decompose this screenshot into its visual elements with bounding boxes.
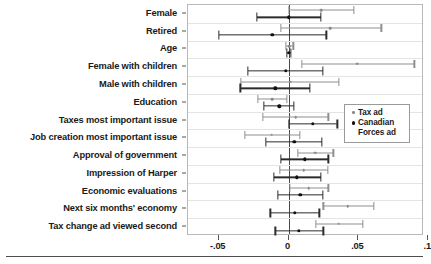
point-estimate-marker	[347, 205, 350, 208]
confidence-interval-cap	[286, 95, 287, 103]
confidence-interval-cap	[270, 208, 271, 217]
gridline	[188, 76, 422, 77]
point-estimate-marker	[271, 98, 274, 101]
confidence-interval-cap	[288, 119, 289, 128]
confidence-interval-cap	[333, 149, 334, 157]
confidence-interval-cap	[354, 6, 355, 14]
confidence-interval-cap	[301, 60, 302, 68]
y-axis-tick	[182, 83, 186, 84]
x-axis: -.050.05.1	[187, 235, 423, 261]
y-axis-tick-label: Job creation most important issue	[30, 132, 177, 142]
confidence-interval-cap	[289, 184, 290, 192]
y-axis-tick-label: Taxes most important issue	[59, 115, 177, 125]
y-axis-tick	[182, 208, 186, 209]
y-axis-tick	[182, 190, 186, 191]
point-estimate-marker	[294, 116, 297, 119]
y-axis-tick-label: Economic evaluations	[82, 186, 177, 196]
gridline	[188, 165, 422, 166]
legend-dot-icon-canadian-forces-ad	[349, 118, 358, 124]
confidence-interval-cap	[320, 13, 321, 22]
point-estimate-marker	[284, 69, 287, 72]
confidence-interval-cap	[262, 113, 263, 121]
point-estimate-marker	[303, 158, 306, 161]
legend-item-tax-ad: Tax ad	[349, 108, 405, 117]
confidence-interval-cap	[293, 42, 294, 50]
confidence-interval-cap	[328, 113, 329, 121]
gridline	[188, 58, 422, 59]
y-axis-tick-label: Female	[146, 8, 177, 18]
y-axis-tick	[182, 48, 186, 49]
confidence-interval-cap	[327, 166, 328, 174]
gridline	[188, 23, 422, 24]
y-axis-tick-label: Approval of government	[73, 150, 177, 160]
confidence-interval-cap	[275, 226, 276, 235]
point-estimate-marker	[320, 9, 323, 12]
confidence-interval-cap	[299, 131, 300, 139]
gridline	[188, 41, 422, 42]
y-axis-tick-label: Age	[160, 43, 177, 53]
confidence-interval-cap	[297, 149, 298, 157]
legend-label-canadian-forces-ad: Canadian Forces ad	[358, 118, 405, 137]
confidence-interval-cap	[319, 208, 320, 217]
point-estimate-marker	[274, 87, 277, 90]
confidence-interval-cap	[362, 220, 363, 228]
confidence-interval-cap	[288, 6, 289, 14]
y-axis-tick	[182, 66, 186, 67]
point-estimate-marker	[293, 211, 296, 214]
confidence-interval-cap	[373, 202, 374, 210]
confidence-interval-cap	[257, 95, 258, 103]
confidence-interval-cap	[240, 84, 241, 93]
confidence-interval-cap	[290, 48, 291, 57]
confidence-interval-cap	[256, 13, 257, 22]
confidence-interval-cap	[273, 173, 274, 182]
confidence-interval-cap	[338, 78, 339, 86]
x-axis-tick-label: 0	[285, 241, 290, 251]
gridline	[188, 147, 422, 148]
point-estimate-marker	[303, 169, 306, 172]
gridline	[188, 200, 422, 201]
y-axis-tick	[182, 155, 186, 156]
confidence-interval-cap	[322, 190, 323, 199]
x-axis-tick-label: -.05	[210, 241, 225, 251]
legend: Tax ad Canadian Forces ad	[344, 104, 410, 143]
legend-item-canadian-forces-ad: Canadian Forces ad	[349, 118, 405, 137]
confidence-interval-cap	[263, 102, 264, 111]
y-axis-tick-label: Retired	[146, 26, 177, 36]
point-estimate-marker	[356, 62, 359, 65]
y-axis-label-column: FemaleRetiredAgeFemale with childrenMale…	[0, 0, 183, 235]
bottom-rule	[6, 256, 423, 257]
point-estimate-marker	[297, 229, 300, 232]
gridline	[188, 94, 422, 95]
confidence-interval-cap	[320, 173, 321, 182]
confidence-interval-cap	[293, 102, 294, 111]
x-axis-tick	[357, 235, 358, 240]
y-axis-tick	[182, 137, 186, 138]
y-axis-tick-label: Education	[133, 97, 177, 107]
confidence-interval-cap	[265, 137, 266, 146]
point-estimate-marker	[295, 176, 298, 179]
confidence-interval-cap	[277, 190, 278, 199]
confidence-interval-cap	[337, 119, 338, 128]
y-axis-tick	[182, 30, 186, 31]
point-estimate-marker	[292, 140, 295, 143]
gridline	[188, 218, 422, 219]
y-axis-tick	[182, 172, 186, 173]
confidence-interval-cap	[414, 60, 415, 68]
confidence-interval-cap	[247, 66, 248, 75]
confidence-interval-cap	[218, 31, 219, 40]
confidence-interval-cap	[280, 24, 281, 32]
gridline	[188, 183, 422, 184]
x-axis-tick	[427, 235, 428, 240]
y-axis-tick-label: Tax change ad viewed second	[48, 221, 177, 231]
confidence-interval-cap	[315, 220, 316, 228]
confidence-interval-cap	[381, 24, 382, 32]
y-axis-tick-label: Female with children	[88, 61, 177, 71]
y-axis-tick-label: Impression of Harper	[86, 168, 177, 178]
confidence-interval-cap	[280, 155, 281, 164]
confidence-interval-cap	[328, 184, 329, 192]
confidence-interval-cap	[321, 137, 322, 146]
legend-label-tax-ad: Tax ad	[358, 108, 383, 117]
confidence-interval-cap	[326, 31, 327, 40]
point-estimate-marker	[278, 104, 281, 107]
